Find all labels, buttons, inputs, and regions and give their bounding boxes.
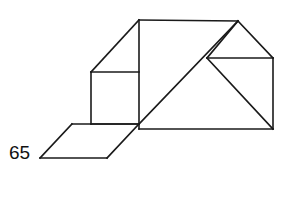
angle-label-65: 65: [9, 143, 30, 163]
geometry-figure: 65: [0, 0, 290, 197]
geometry-drawing: [0, 0, 290, 197]
segment-lower-long-diagonal: [107, 124, 139, 158]
segment-long-diagonal: [139, 21, 238, 124]
figure-segments: [40, 20, 273, 158]
segment-right-roof-slope: [238, 21, 273, 58]
segment-parallelogram-left-slope: [40, 124, 72, 158]
segment-right-diagonal-brace: [207, 58, 273, 129]
segment-ridge-top-edge: [139, 20, 238, 21]
segment-left-roof-slope: [91, 20, 139, 72]
